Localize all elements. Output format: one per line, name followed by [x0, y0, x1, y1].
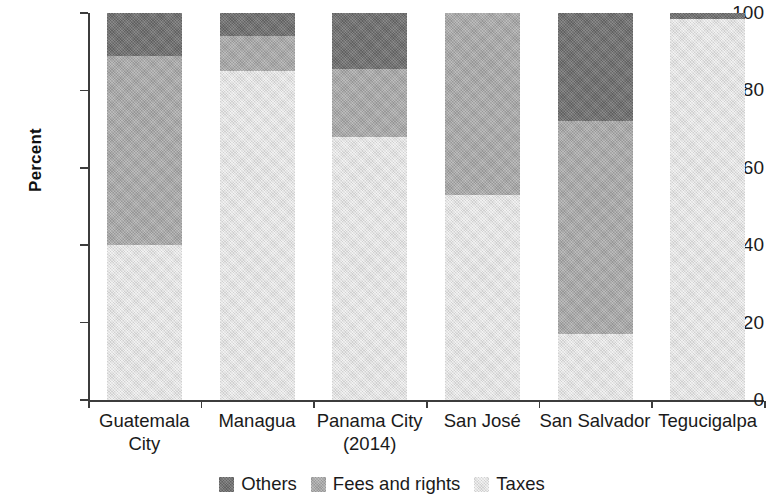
bar-segment[interactable]	[558, 334, 633, 400]
bar-group[interactable]	[558, 13, 633, 400]
x-axis-label-line1: Panama City	[317, 410, 423, 431]
x-axis-label: San José	[420, 409, 545, 432]
bar-segment[interactable]	[107, 245, 182, 400]
x-axis-label: GuatemalaCity	[82, 409, 207, 455]
legend-item[interactable]: Fees and rights	[311, 473, 461, 495]
legend-label: Taxes	[496, 473, 544, 495]
legend-swatch-icon	[474, 477, 489, 492]
x-axis-tick	[426, 401, 428, 408]
legend-label: Fees and rights	[333, 473, 461, 495]
bar-segment[interactable]	[220, 36, 295, 71]
legend-swatch-icon	[311, 477, 326, 492]
bar-group[interactable]	[107, 13, 182, 400]
x-axis-tick	[201, 401, 203, 408]
bar-segment[interactable]	[445, 13, 520, 195]
x-axis-label-line1: San José	[444, 410, 521, 431]
x-axis-label: Managua	[195, 409, 320, 432]
y-axis-tick	[80, 167, 88, 169]
y-axis-tick	[80, 244, 88, 246]
x-axis-label: San Salvador	[533, 409, 658, 432]
x-axis-tick	[88, 401, 90, 408]
bar-group[interactable]	[670, 13, 745, 400]
x-axis-label-line1: Guatemala	[99, 410, 190, 431]
bar-segment[interactable]	[558, 13, 633, 121]
x-axis-tick	[651, 401, 653, 408]
bar-segment[interactable]	[445, 195, 520, 400]
bar-segment[interactable]	[332, 13, 407, 69]
bar-group[interactable]	[220, 13, 295, 400]
x-axis-label-line1: San Salvador	[539, 410, 650, 431]
bar-segment[interactable]	[332, 69, 407, 137]
chart-legend: OthersFees and rightsTaxes	[0, 473, 764, 495]
bar-group[interactable]	[332, 13, 407, 400]
x-axis-tick	[313, 401, 315, 408]
y-axis-title: Percent	[26, 80, 46, 240]
y-axis-tick	[80, 90, 88, 92]
x-axis-label: Tegucigalpa	[645, 409, 770, 432]
plot-area	[88, 13, 764, 400]
x-axis-label: Panama City(2014)	[307, 409, 432, 455]
bar-segment[interactable]	[558, 121, 633, 334]
x-axis-tick	[539, 401, 541, 408]
legend-label: Others	[241, 473, 297, 495]
legend-swatch-icon	[219, 477, 234, 492]
x-axis-label-line2: (2014)	[307, 432, 432, 455]
bar-segment[interactable]	[670, 19, 745, 400]
bar-group[interactable]	[445, 13, 520, 400]
bar-segment[interactable]	[220, 71, 295, 400]
legend-item[interactable]: Taxes	[474, 473, 544, 495]
bar-segment[interactable]	[332, 137, 407, 400]
bar-segment[interactable]	[107, 56, 182, 246]
y-axis-tick	[80, 12, 88, 14]
legend-item[interactable]: Others	[219, 473, 297, 495]
y-axis-tick	[80, 322, 88, 324]
x-axis-tick	[764, 401, 766, 408]
y-axis-tick	[80, 399, 88, 401]
bar-segment[interactable]	[107, 13, 182, 56]
x-axis-label-line1: Tegucigalpa	[658, 410, 757, 431]
bar-segment[interactable]	[220, 13, 295, 36]
x-axis-label-line2: City	[82, 432, 207, 455]
x-axis-label-line1: Managua	[218, 410, 295, 431]
